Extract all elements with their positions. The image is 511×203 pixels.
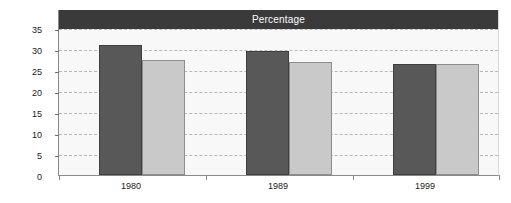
x-tick-label-1989: 1989 <box>268 182 288 191</box>
gridline-35 <box>59 29 498 30</box>
y-tick-mark <box>55 51 59 52</box>
x-tick-mark <box>353 175 354 180</box>
y-tick-label: 10 <box>32 131 42 140</box>
bar-1999-series-2[interactable] <box>436 64 479 175</box>
y-tick-mark <box>55 93 59 94</box>
y-tick-label: 25 <box>32 68 42 77</box>
x-tick-mark <box>59 175 60 180</box>
y-tick-mark <box>55 72 59 73</box>
bar-1999-series-1[interactable] <box>393 64 436 175</box>
y-tick-label: 0 <box>37 173 42 182</box>
y-tick-mark <box>55 30 59 31</box>
x-tick-label-1980: 1980 <box>121 182 141 191</box>
y-tick-label: 20 <box>32 89 42 98</box>
x-tick-mark <box>206 175 207 180</box>
bar-1980-series-1[interactable] <box>99 45 142 175</box>
chart-title: Percentage <box>252 15 305 25</box>
bar-1989-series-1[interactable] <box>246 51 289 175</box>
y-tick-mark <box>55 135 59 136</box>
x-tick-label-1999: 1999 <box>415 182 435 191</box>
y-axis: 35 30 25 20 15 10 5 0 <box>0 0 54 203</box>
y-tick-label: 5 <box>37 152 42 161</box>
y-tick-label: 15 <box>32 110 42 119</box>
y-tick-mark <box>55 156 59 157</box>
bar-1989-series-2[interactable] <box>289 62 332 175</box>
bar-chart: 35 30 25 20 15 10 5 0 Percentage <box>0 0 511 203</box>
plot-area: Percentage <box>58 10 499 176</box>
gridline-0 <box>59 175 498 176</box>
bar-1980-series-2[interactable] <box>142 60 185 175</box>
y-tick-mark <box>55 114 59 115</box>
y-tick-label: 30 <box>32 47 42 56</box>
chart-title-band: Percentage <box>59 10 498 29</box>
y-tick-label: 35 <box>32 26 42 35</box>
x-tick-mark <box>499 175 500 180</box>
x-axis: 1980 1989 1999 <box>58 182 499 198</box>
